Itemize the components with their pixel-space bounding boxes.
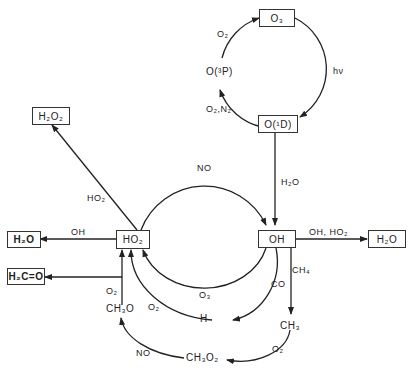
label-o2-h: O₂ [148,302,160,312]
node-h2o-right: H₂O [368,230,406,248]
label-o2-ch3: O₂ [272,344,284,354]
label-o2-n2: O₂,N₂ [206,104,232,114]
node-o3p: O(³P) [206,66,233,77]
label-hv: hν [333,66,344,76]
node-ho2: HO₂ [116,230,150,249]
label-oh-ho2: OH, HO₂ [309,227,348,237]
label-o3-bottom: O₃ [199,290,211,300]
node-o3: O₃ [259,9,295,27]
label-oh-left: OH [71,227,86,237]
label-o2-ch3o: O₂ [106,286,118,296]
label-no-bottom: NO [136,348,151,358]
node-oh: OH [258,230,296,248]
node-ch3o2: CH₃O₂ [186,352,219,363]
label-ch4: CH₄ [292,265,310,275]
label-co: CO [271,279,286,289]
label-h2o: H₂O [281,177,300,187]
label-o2-top: O₂ [217,29,229,39]
label-ho2: HO₂ [87,193,106,203]
node-o1d: O(¹D) [258,115,298,133]
node-h2o2: H₂O₂ [32,107,70,125]
label-no-top: NO [197,163,212,173]
node-h: H [200,313,208,324]
node-ch3o: CH₃O [106,303,134,314]
node-ch3: CH₃ [280,320,300,331]
node-h2co: H₂C=O [7,268,45,285]
node-h2o-left: H₂O [7,231,41,248]
arrow-o3-to-o1d [295,18,326,117]
